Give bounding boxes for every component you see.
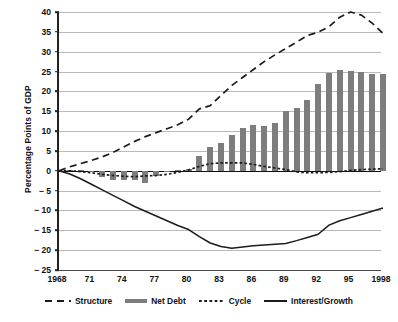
y-tick-mark	[55, 230, 59, 232]
chart-legend: StructureNet DebtCycleInterest/Growth	[0, 296, 398, 306]
y-tick-mark	[55, 210, 59, 212]
long-dash-swatch	[45, 297, 71, 305]
y-tick-mark	[55, 150, 59, 152]
solid-line-swatch	[264, 300, 287, 302]
y-tick-mark	[55, 190, 59, 192]
y-tick-label: 40	[41, 7, 51, 17]
short-dash-swatch	[199, 297, 225, 305]
x-tick-label: 83	[214, 274, 224, 284]
y-tick-mark	[55, 269, 59, 271]
plot-inner	[59, 12, 381, 270]
x-axis-ticks: 19687174778083868992951998	[57, 272, 381, 290]
legend-item-net-debt[interactable]: Net Debt	[125, 296, 185, 306]
x-tick-label: 80	[182, 274, 192, 284]
x-tick-label: 86	[247, 274, 257, 284]
x-tick-label: 95	[344, 274, 354, 284]
y-tick-label: − 20	[34, 245, 51, 255]
y-tick-label: − 15	[34, 225, 51, 235]
legend-item-structure[interactable]: Structure	[45, 296, 112, 306]
x-tick-label: 74	[117, 274, 127, 284]
y-tick-label: 0	[46, 166, 51, 176]
y-tick-mark	[55, 51, 59, 53]
y-tick-label: 15	[41, 106, 51, 116]
x-tick-label: 1998	[371, 274, 390, 284]
x-tick-label: 71	[85, 274, 95, 284]
legend-label: Net Debt	[151, 296, 185, 306]
legend-label: Interest/Growth	[291, 296, 353, 306]
x-tick-label: 89	[279, 274, 289, 284]
y-tick-mark	[55, 130, 59, 132]
x-tick-label: 92	[311, 274, 321, 284]
bar-swatch	[125, 299, 147, 303]
y-tick-label: 35	[41, 27, 51, 37]
line-series-layer	[59, 12, 383, 270]
y-tick-mark	[55, 31, 59, 33]
plot-area: 4035302520151050− 5− 10− 15− 20− 25	[57, 12, 381, 270]
chart-figure: Percentage Points of GDP 403530252015105…	[0, 0, 398, 322]
line-interest-growth	[59, 171, 383, 248]
legend-label: Cycle	[229, 296, 251, 306]
y-tick-label: − 5	[39, 186, 51, 196]
line-structure	[59, 12, 383, 171]
y-tick-mark	[55, 11, 59, 13]
x-tick-label: 1968	[47, 274, 66, 284]
y-tick-mark	[55, 91, 59, 93]
legend-label: Structure	[75, 296, 112, 306]
y-tick-label: 10	[41, 126, 51, 136]
y-tick-label: − 10	[34, 205, 51, 215]
y-tick-mark	[55, 71, 59, 73]
legend-item-interest-growth[interactable]: Interest/Growth	[264, 296, 353, 306]
y-tick-label: 25	[41, 67, 51, 77]
line-cycle	[59, 163, 383, 177]
y-tick-label: 30	[41, 47, 51, 57]
y-tick-mark	[55, 170, 59, 172]
x-tick-label: 77	[149, 274, 159, 284]
y-tick-mark	[55, 110, 59, 112]
y-tick-label: 20	[41, 86, 51, 96]
legend-item-cycle[interactable]: Cycle	[199, 296, 251, 306]
y-tick-mark	[55, 249, 59, 251]
y-axis-title: Percentage Points of GDP	[23, 64, 33, 214]
y-tick-label: 5	[46, 146, 51, 156]
